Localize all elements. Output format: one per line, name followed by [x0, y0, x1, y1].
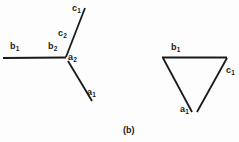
- label-subscript: 2: [73, 56, 77, 63]
- label-subscript: 1: [177, 46, 181, 53]
- open-chain-diagram: [3, 8, 92, 101]
- label-subscript: 1: [185, 108, 189, 115]
- segment-b: [3, 58, 66, 59]
- label-subscript: 2: [54, 45, 58, 52]
- triangle-left-edge: [163, 58, 192, 112]
- label-base: b: [10, 41, 16, 51]
- open-chain-diagram-label-c1: c1: [72, 4, 81, 13]
- triangle-diagram: [162, 58, 227, 113]
- triangle-diagram-label-c1: c1: [226, 66, 235, 75]
- segment-c: [66, 8, 85, 57]
- open-chain-diagram-label-b2: b2: [48, 42, 57, 51]
- triangle-right-edge: [197, 58, 227, 112]
- label-subscript: 1: [92, 91, 96, 98]
- open-chain-diagram-label-a1: a1: [87, 88, 96, 97]
- label-base: b: [48, 41, 54, 51]
- label-subscript: 1: [231, 69, 235, 76]
- figure-panel-b: b1b2c1c2a2a1b1c1a1 (b): [0, 0, 239, 142]
- label-subscript: 1: [16, 45, 20, 52]
- triangle-diagram-label-a1: a1: [180, 105, 189, 114]
- open-chain-diagram-label-a2: a2: [68, 53, 77, 62]
- label-subscript: 1: [77, 7, 81, 14]
- label-subscript: 2: [63, 32, 67, 39]
- open-chain-diagram-label-b1: b1: [10, 42, 19, 51]
- open-chain-diagram-label-c2: c2: [58, 29, 67, 38]
- figure-line-art: [0, 0, 239, 142]
- strokes-layer: [3, 8, 227, 112]
- figure-caption: (b): [123, 126, 135, 135]
- label-base: b: [171, 42, 177, 52]
- triangle-diagram-label-b1: b1: [171, 43, 180, 52]
